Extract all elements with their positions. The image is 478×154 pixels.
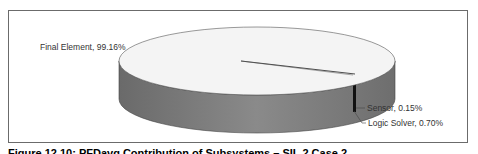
pie-top — [119, 27, 395, 95]
label-logic-solver: Logic Solver, 0.70% — [368, 118, 443, 128]
pie-chart-3d — [0, 0, 478, 154]
label-final-element: Final Element, 99.16% — [40, 42, 126, 52]
figure-caption: Figure 12.10: PFDavg Contribution of Sub… — [8, 147, 347, 154]
label-sensor: Sensor, 0.15% — [367, 103, 422, 113]
